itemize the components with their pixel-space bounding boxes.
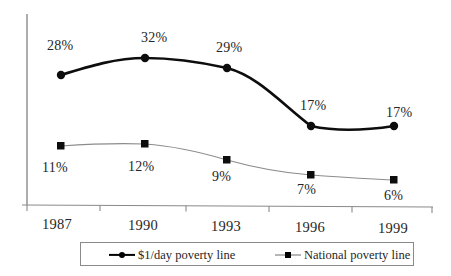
data-label-s1-1996: 17%: [300, 98, 326, 114]
data-label-s1-1990: 32%: [141, 30, 167, 46]
square-marker-icon: [275, 249, 301, 261]
legend-label-national: National poverty line: [304, 248, 410, 263]
data-label-s2-1999: 6%: [384, 188, 403, 204]
x-tick-label-1999: 1999: [363, 220, 423, 237]
data-label-s1-1993: 29%: [216, 40, 242, 56]
x-tick-label-1996: 1996: [280, 219, 340, 236]
legend-label-dollar-per-day: $1/day poverty line: [138, 248, 235, 263]
data-label-s1-1999: 17%: [386, 105, 412, 121]
chart-page: 28% 32% 29% 17% 17% 11% 12% 9% 7% 6% 198…: [0, 0, 451, 276]
x-axis-line: [22, 205, 433, 207]
legend-item-national[interactable]: National poverty line: [275, 243, 410, 267]
legend-item-dollar-per-day[interactable]: $1/day poverty line: [109, 243, 235, 267]
data-label-s1-1987: 28%: [47, 38, 73, 54]
data-label-s2-1990: 12%: [128, 159, 154, 175]
x-tick-label-1993: 1993: [196, 218, 256, 235]
data-label-s2-1996: 7%: [297, 182, 316, 198]
data-label-s2-1987: 11%: [42, 160, 68, 176]
chart-legend: $1/day poverty line National poverty lin…: [80, 242, 414, 266]
circle-marker-icon: [109, 249, 135, 261]
x-tick-label-1987: 1987: [27, 216, 87, 233]
data-label-s2-1993: 9%: [212, 169, 231, 185]
x-tick-label-1990: 1990: [113, 217, 173, 234]
series-dollar-per-day-markers: [57, 54, 398, 130]
